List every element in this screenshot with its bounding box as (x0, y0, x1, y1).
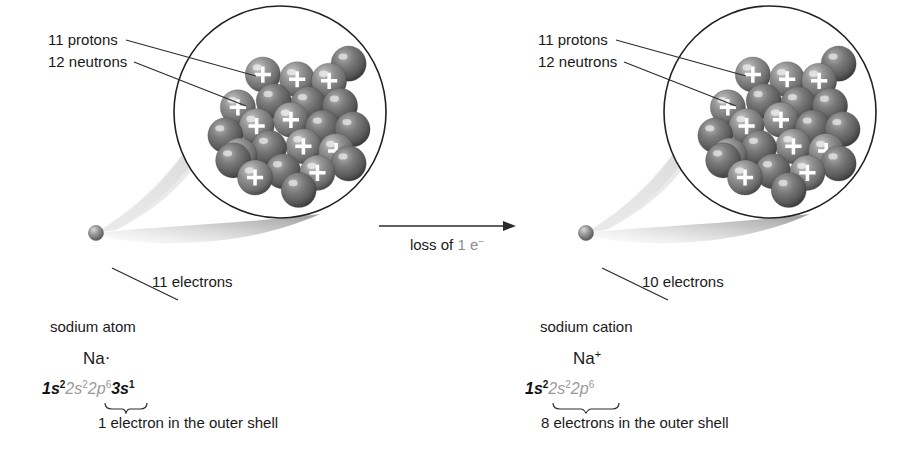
neutron-sphere (771, 172, 806, 207)
element-symbol-left: Na (83, 349, 105, 368)
element-symbol-right: Na (573, 349, 595, 368)
species-symbol-left: Na· (83, 348, 110, 369)
outer-shell-caption-right: 8 electrons in the outer shell (541, 414, 729, 431)
electron-dot-mark-left: · (105, 348, 111, 367)
species-name-left: sodium atom (50, 318, 136, 335)
neutron-sphere (281, 172, 316, 207)
neutron-sphere (331, 146, 366, 181)
callout-protons-left: 11 protons (48, 30, 118, 49)
callout-electrons-left: 11 electrons (152, 272, 233, 291)
proton-sphere (237, 160, 272, 195)
species-symbol-right: Na+ (573, 348, 601, 369)
proton-sphere (727, 160, 762, 195)
config-valence-left: 3s1 (111, 380, 134, 397)
neutron-sphere (821, 146, 856, 181)
config-inner-left: 2s22p6 (65, 380, 111, 397)
callout-electrons-right: 10 electrons (642, 272, 724, 291)
charge-mark-right: + (595, 348, 601, 360)
callout-neutrons-right: 12 neutrons (538, 52, 617, 71)
electron-configuration-right: 1s22s22p6 (525, 380, 594, 398)
sodium-ionization-figure: 11 protons 12 neutrons 11 electrons sodi… (0, 0, 902, 454)
config-core-right: 1s2 (525, 380, 548, 397)
callout-neutrons-left: 12 neutrons (48, 52, 127, 71)
panel-sodium-cation: 11 protons 12 neutrons 10 electrons sodi… (451, 0, 902, 454)
outer-shell-caption-left: 1 electron in the outer shell (98, 414, 278, 431)
config-inner-right: 2s22p6 (548, 380, 594, 397)
outer-shell-brace-right (552, 402, 620, 414)
species-name-right: sodium cation (540, 318, 633, 335)
config-core-left: 1s2 (42, 380, 65, 397)
callout-protons-right: 11 protons (538, 30, 608, 49)
electron-configuration-left: 1s22s22p63s1 (42, 380, 135, 398)
outer-shell-brace-left (104, 402, 148, 414)
arrow-label-prefix: loss of (410, 236, 453, 253)
